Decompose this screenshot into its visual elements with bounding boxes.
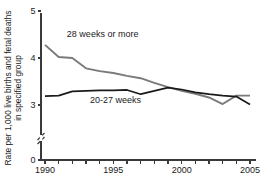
x-tick-label: 2000 <box>172 165 192 175</box>
x-axis: 1990199520002005 <box>35 160 260 175</box>
y-tick-label: 3 <box>30 100 35 110</box>
chart-container: Rate per 1,000 live births and fetal dea… <box>0 0 261 184</box>
y-tick-label: 0 <box>30 155 35 165</box>
series-label: 20-27 weeks <box>90 95 142 105</box>
series-label-group: 28 weeks or more20-27 weeks <box>67 29 142 105</box>
line-chart: Rate per 1,000 live births and fetal dea… <box>0 0 261 184</box>
y-axis-title-line-1: Rate per 1,000 live births and fetal dea… <box>3 10 13 165</box>
y-axis-title: Rate per 1,000 live births and fetal dea… <box>3 10 23 165</box>
x-tick-label: 2005 <box>240 165 260 175</box>
series-label: 28 weeks or more <box>67 29 139 39</box>
y-axis-title-line-2: in specified group <box>13 55 23 121</box>
data-series-group <box>45 45 250 105</box>
y-tick-label: 5 <box>30 6 35 16</box>
y-tick-label: 4 <box>30 53 35 63</box>
y-axis: 0345 <box>30 6 44 165</box>
x-tick-label: 1990 <box>35 165 55 175</box>
x-tick-label: 1995 <box>103 165 123 175</box>
